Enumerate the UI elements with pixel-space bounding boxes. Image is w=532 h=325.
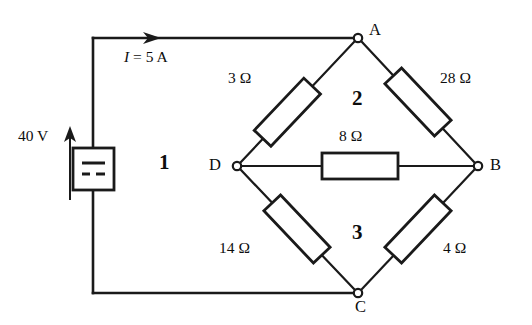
node-terminal-d xyxy=(233,162,241,170)
node-terminal-a xyxy=(354,34,362,42)
resistor-label-28-ohm: 28 Ω xyxy=(440,70,471,86)
node-label-a: A xyxy=(369,22,381,39)
loop-label-2: 2 xyxy=(352,88,363,109)
source-voltage-label: 40 V xyxy=(18,128,48,144)
voltage-source-symbol xyxy=(73,148,114,190)
resistor-3-ohm xyxy=(254,78,320,146)
resistor-label-14-ohm: 14 Ω xyxy=(219,240,250,256)
loop-label-3: 3 xyxy=(352,222,363,243)
resistor-label-3-ohm: 3 Ω xyxy=(228,70,251,86)
resistor-label-8-ohm: 8 Ω xyxy=(339,128,362,144)
resistor-4-ohm xyxy=(385,195,451,263)
node-terminal-c xyxy=(354,289,362,297)
resistor-8-ohm xyxy=(322,153,398,179)
node-label-b: B xyxy=(490,157,501,174)
node-terminal-b xyxy=(474,162,482,170)
current-label: I = 5 A xyxy=(124,49,168,65)
circuit-diagram xyxy=(0,0,532,325)
node-label-c: C xyxy=(355,299,366,316)
resistor-14-ohm xyxy=(264,195,330,263)
resistor-label-4-ohm: 4 Ω xyxy=(443,240,466,256)
loop-label-1: 1 xyxy=(159,152,170,173)
node-label-d: D xyxy=(209,157,221,174)
